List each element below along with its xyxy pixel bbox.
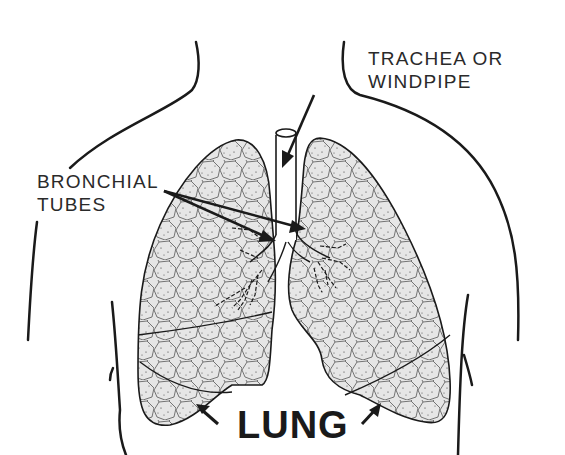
lung-diagram: TRACHEA OR WINDPIPE BRONCHIAL TUBES LUNG [0,0,565,455]
left-lung-arrow [196,404,218,424]
right-lung-arrow [362,403,381,424]
trachea-label-line1: TRACHEA OR [368,47,504,70]
bronchial-tubes-label: BRONCHIAL TUBES [37,170,159,216]
right-lung [289,138,451,423]
lung-title: LUNG [237,404,349,447]
trachea-label-line2: WINDPIPE [368,70,504,93]
trachea-label: TRACHEA OR WINDPIPE [368,47,504,93]
bronchial-label-line1: BRONCHIAL [37,170,159,193]
bronchial-label-line2: TUBES [37,193,159,216]
